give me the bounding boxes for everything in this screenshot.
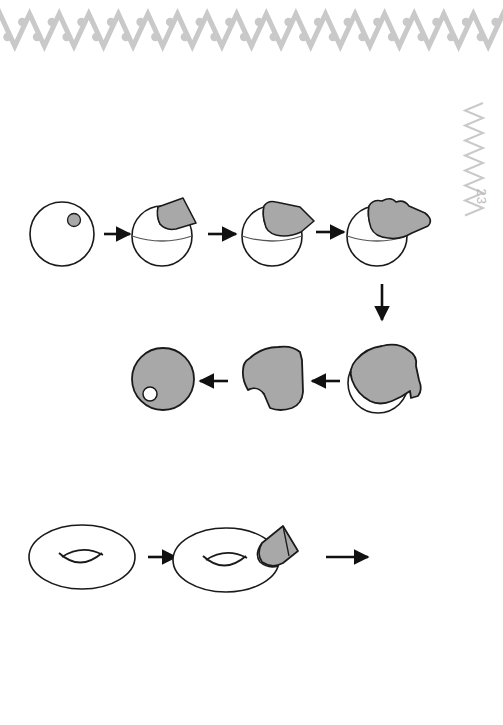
filled-disk-with-hole (132, 348, 194, 410)
flattened-peel-blob (243, 347, 303, 410)
torus-peel-start (173, 526, 298, 592)
peel-blob (243, 347, 303, 410)
vertical-zigzag-marker (443, 95, 503, 255)
sphere-peel-more (347, 199, 430, 266)
sphere-with-puncture (30, 202, 94, 266)
peel-flap (259, 526, 298, 566)
torus-plain (29, 525, 135, 589)
page-canvas: 23 (0, 0, 503, 725)
sphere-peel-start (131, 198, 196, 267)
peel-flap (368, 199, 430, 239)
disk-hole (143, 387, 157, 401)
peel-blob (351, 345, 421, 404)
page-number: 23 (474, 189, 489, 205)
sphere-peel-mid (242, 202, 314, 267)
torus-outer (29, 525, 135, 589)
peel-flap (157, 198, 196, 229)
sphere-mostly-peeled (348, 345, 421, 413)
puncture-dot (68, 214, 81, 227)
topology-diagram (0, 0, 503, 725)
peel-flap (263, 202, 314, 237)
